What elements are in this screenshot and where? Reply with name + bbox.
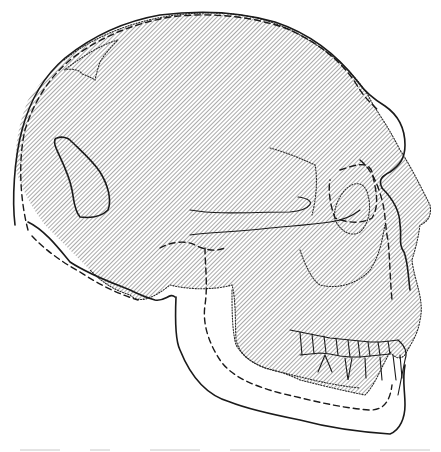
hatched-skull-silhouette bbox=[16, 13, 431, 395]
skull-comparison-figure bbox=[0, 0, 441, 452]
